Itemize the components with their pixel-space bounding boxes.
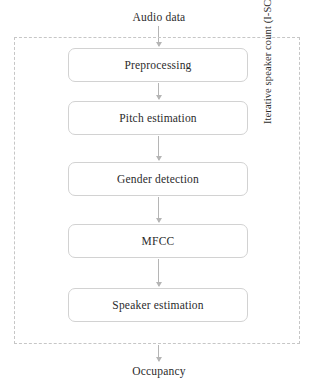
flowchart-diagram: Audio data Iterative speaker count (I-SC… [0, 0, 318, 387]
output-label-occupancy: Occupancy [0, 365, 318, 378]
arrow-mfcc-to-speaker-estimation [158, 259, 159, 286]
arrow-pitch-estimation-to-gender-detection [158, 136, 159, 160]
process-box-label: MFCC [142, 235, 175, 248]
arrow-speaker-estimation-to-occupancy [158, 345, 159, 361]
process-box-mfcc: MFCC [68, 224, 248, 258]
process-box-label: Pitch estimation [119, 112, 197, 125]
process-box-label: Preprocessing [124, 59, 191, 72]
process-box-label: Gender detection [117, 173, 199, 186]
process-box-label: Speaker estimation [112, 299, 203, 312]
process-box-speaker-estimation: Speaker estimation [68, 288, 248, 322]
arrow-preprocessing-to-pitch-estimation [158, 83, 159, 99]
arrow-gender-detection-to-mfcc [158, 197, 159, 222]
process-box-gender-detection: Gender detection [68, 162, 248, 196]
process-box-preprocessing: Preprocessing [68, 48, 248, 82]
group-caption-label: Iterative speaker count (I-SC) [261, 0, 275, 124]
process-box-pitch-estimation: Pitch estimation [68, 101, 248, 135]
